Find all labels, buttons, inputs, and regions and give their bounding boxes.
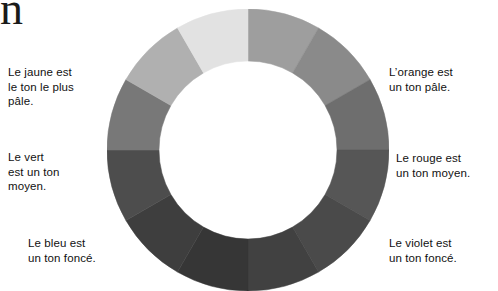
caption-rouge: Le rouge est un ton moyen.	[396, 151, 498, 180]
caption-jaune: Le jaune est le ton le plus pâle.	[8, 65, 108, 109]
color-wheel-segments	[107, 9, 389, 291]
caption-orange: L’orange est un ton pâle.	[389, 65, 497, 94]
clipped-heading-glyph: n	[0, 0, 23, 32]
color-wheel	[107, 9, 389, 291]
color-wheel-svg	[107, 9, 389, 291]
page-root: n Le jaune est le ton le plus pâle. Le v…	[0, 0, 498, 291]
caption-vert: Le vert est un ton moyen.	[8, 150, 108, 194]
caption-bleu: Le bleu est un ton foncé.	[28, 236, 138, 265]
caption-violet: Le violet est un ton foncé.	[389, 236, 497, 265]
